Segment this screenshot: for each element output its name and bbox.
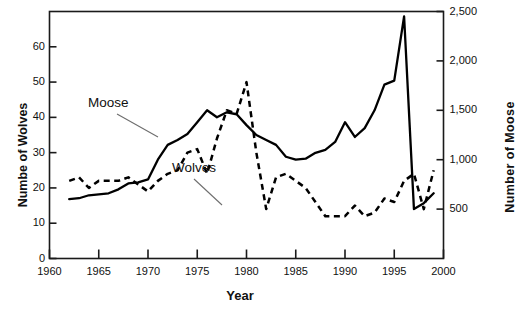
x-tick-label-1970: 1970: [126, 265, 170, 277]
x-axis-title: Year: [0, 288, 480, 303]
y-axis-left-ticks: [50, 47, 57, 259]
y-tick-label-left-40: 40: [0, 110, 45, 122]
y-tick-label-right-1,500: 1,500: [450, 103, 500, 115]
wolves-leader-line: [194, 179, 222, 205]
y-axis-right-ticks: [437, 12, 444, 210]
y-tick-label-left-30: 30: [0, 146, 45, 158]
x-tick-label-2000: 2000: [422, 265, 466, 277]
x-tick-label-1980: 1980: [225, 265, 269, 277]
moose-series-label: Moose: [88, 95, 129, 110]
y-tick-label-left-20: 20: [0, 181, 45, 193]
y-tick-label-left-60: 60: [0, 40, 45, 52]
chart-figure: Moose Wolves Numbe of Wolves Number of M…: [0, 0, 529, 312]
x-tick-label-1965: 1965: [77, 265, 121, 277]
plot-frame: [50, 12, 444, 259]
y-tick-label-right-2,500: 2,500: [450, 5, 500, 17]
wolves-series-label: Wolves: [172, 160, 216, 175]
y-tick-label-right-500: 500: [450, 202, 500, 214]
x-tick-label-1995: 1995: [372, 265, 416, 277]
y-axis-right-title: Number of Moose: [503, 82, 517, 232]
y-tick-label-left-10: 10: [0, 216, 45, 228]
y-tick-label-right-2,000: 2,000: [450, 54, 500, 66]
moose-leader-line: [117, 114, 158, 137]
x-tick-label-1975: 1975: [175, 265, 219, 277]
x-axis-ticks: [50, 250, 444, 259]
y-tick-label-left-0: 0: [0, 252, 45, 264]
x-tick-label-1990: 1990: [323, 265, 367, 277]
y-tick-label-right-1,000: 1,000: [450, 153, 500, 165]
x-tick-label-1985: 1985: [274, 265, 318, 277]
y-tick-label-left-50: 50: [0, 75, 45, 87]
x-tick-label-1960: 1960: [28, 265, 72, 277]
